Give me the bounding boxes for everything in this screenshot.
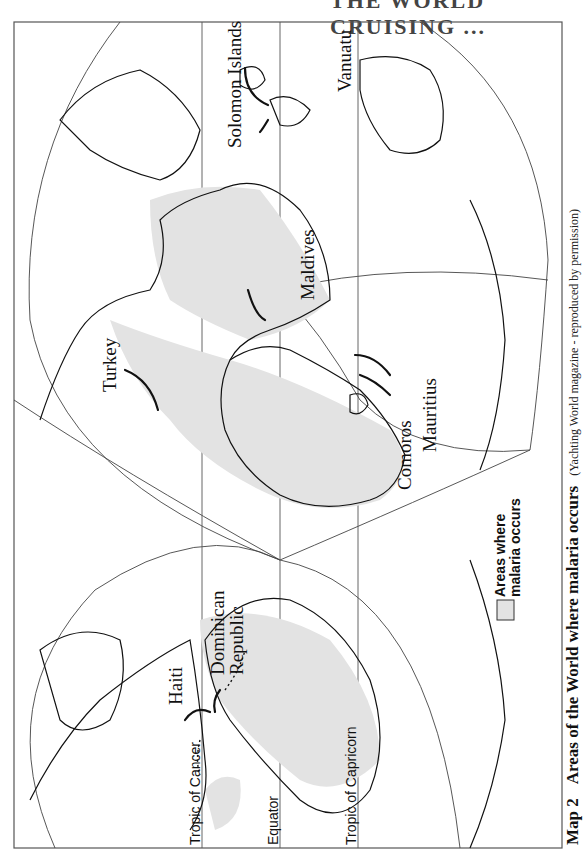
world-map: [0, 0, 587, 863]
caption-credit: (Yachting World magazine - reproduced by…: [567, 209, 581, 476]
legend-label: Areas where malaria occurs: [493, 498, 523, 597]
solomon-arrow: [245, 68, 268, 105]
comoros-label: Comoros: [395, 420, 414, 490]
haiti-arrow: [185, 710, 210, 720]
turkey-label: Turkey: [100, 338, 119, 392]
tropic-of-capricorn-label: Tropic of Capricorn: [343, 726, 359, 845]
legend-line1: Areas where: [493, 498, 508, 597]
comoros-arrow: [360, 375, 390, 395]
caption-number: Map 2: [563, 798, 582, 845]
legend-line2: malaria occurs: [508, 498, 523, 597]
equator-label: Equator: [265, 796, 281, 845]
dominican-republic-label: Dominican Republic: [208, 591, 246, 675]
haiti-label: Haiti: [166, 667, 185, 705]
mauritius-arrow: [355, 355, 390, 375]
dominican-label-line1: Dominican: [208, 591, 227, 675]
solomon-islands-label: Solomon Islands: [225, 21, 244, 148]
vanuatu-label: Vanuatu: [335, 30, 354, 92]
caption-title: Areas of the World where malaria occurs: [563, 486, 582, 784]
legend-swatch: [497, 600, 514, 620]
mauritius-label: Mauritius: [420, 378, 439, 452]
maldives-label: Maldives: [298, 229, 317, 300]
dominican-label-line2: Republic: [227, 591, 246, 675]
tropic-of-cancer-label: Tropic of Cancer: [187, 742, 203, 845]
malaria-area-central-america: [205, 777, 241, 830]
map-caption: Map 2 Areas of the World where malaria o…: [563, 209, 583, 845]
vanuatu-arrow: [260, 120, 268, 132]
